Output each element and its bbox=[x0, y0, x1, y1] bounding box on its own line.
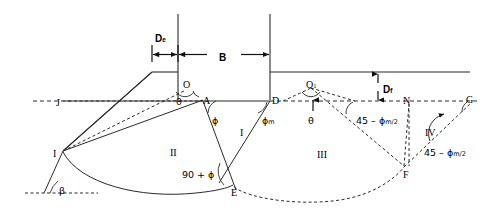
angle-label-phi-m-sub: m bbox=[268, 118, 274, 126]
point-label-I: I bbox=[53, 143, 56, 161]
point-label-N: N bbox=[403, 90, 410, 108]
angle-label-45-right-sub: m/2 bbox=[453, 150, 466, 158]
point-label-A: A bbox=[203, 90, 210, 108]
point-label-F: F bbox=[403, 164, 409, 182]
point-label-E: E bbox=[231, 182, 237, 200]
dimension-label-Df-sub: f bbox=[390, 87, 392, 94]
angle-label-theta-right: θ bbox=[308, 110, 314, 128]
dimension-label-De-sub: e bbox=[162, 36, 166, 43]
region-label-III: III bbox=[317, 144, 327, 162]
point-label-J: J bbox=[56, 92, 60, 110]
angle-arc-45-left bbox=[346, 102, 353, 114]
dimension-label-Df: Df bbox=[383, 79, 392, 97]
point-label-O1-sub: 1 bbox=[313, 82, 316, 89]
region-label-I: I bbox=[240, 122, 243, 140]
angle-label-phi-m: ϕm bbox=[262, 110, 275, 128]
region-label-II: II bbox=[170, 142, 177, 160]
wedge-II-boundaries bbox=[63, 72, 203, 151]
slip-surface-III bbox=[234, 167, 404, 202]
angle-label-phi-A: ϕ bbox=[212, 110, 218, 128]
angle-label-beta: β bbox=[59, 180, 65, 198]
angle-label-90-plus-phi: 90 + ϕ bbox=[182, 164, 214, 182]
angle-label-45-minus-phim2-right: 45 – ϕm/2 bbox=[424, 142, 466, 160]
angle-label-theta-left: θ bbox=[176, 91, 182, 109]
angle-arc-O-right bbox=[193, 91, 199, 97]
angle-label-45-minus-phim2-left: 45 – ϕm/2 bbox=[356, 110, 398, 128]
point-label-O1: O1 bbox=[306, 74, 316, 92]
angle-label-45-left-sub: m/2 bbox=[385, 118, 398, 126]
angle-arc-90-plus-phi bbox=[218, 163, 224, 185]
dimension-label-De: De bbox=[155, 28, 166, 46]
region-label-IV: IV bbox=[425, 122, 436, 140]
point-label-G: G bbox=[466, 89, 473, 107]
dimension-De bbox=[152, 45, 178, 62]
point-label-O: O bbox=[183, 74, 190, 92]
failure-mechanism-figure: De B Df J O A D O1 N G I E F I II bbox=[0, 0, 482, 211]
angle-arc-beta bbox=[50, 181, 58, 193]
point-label-D: D bbox=[272, 90, 279, 108]
dimension-label-B: B bbox=[219, 47, 226, 65]
